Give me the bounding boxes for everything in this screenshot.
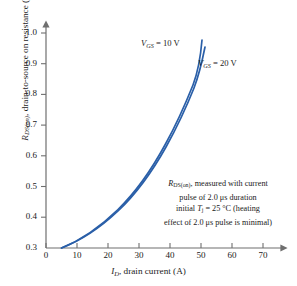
note-subscript: DS(on) <box>173 182 190 188</box>
x-tick-label: 30 <box>126 250 152 260</box>
curve-label-vgs-20v: VGS = 20 V <box>198 58 237 69</box>
y-axis-title-text: , drain-to-source on resistance (Ω) <box>20 0 30 116</box>
curve-label-text: = 20 V <box>211 58 237 68</box>
x-tick-label: 0 <box>33 250 59 260</box>
x-tick-label: 60 <box>219 250 245 260</box>
x-axis-title-text: , drain current (A) <box>119 266 186 276</box>
y-axis-title-symbol: R <box>20 135 30 141</box>
x-axis-ticks <box>46 243 263 248</box>
curve-label-subscript: GS <box>203 62 211 69</box>
y-tick-label: 0.5 <box>11 181 37 191</box>
chart-note-line-2: pulse of 2.0 μs duration <box>140 192 296 203</box>
x-tick-label: 40 <box>157 250 183 260</box>
x-tick-label: 10 <box>64 250 90 260</box>
note-text-lead: initial <box>176 204 197 213</box>
curve-label-vgs-10v: VGS = 10 V <box>141 38 180 49</box>
y-axis-title: RDS(on), drain-to-source on resistance (… <box>20 0 31 170</box>
chart-note-line-1: RDS(on), measured with current <box>140 178 296 192</box>
chart-note-line-3: initial Tj = 25 °C (heating <box>140 203 296 217</box>
curve-label-text: = 10 V <box>154 38 180 48</box>
y-axis-title-subscript: DS(on) <box>23 116 30 135</box>
note-text-tail: = 25 °C (heating <box>203 204 260 213</box>
note-text: , measured with current <box>191 179 268 188</box>
x-axis-title: ID, drain current (A) <box>0 266 297 277</box>
x-tick-label: 20 <box>95 250 121 260</box>
chart-note-line-4: effect of 2.0 μs pulse is minimal) <box>140 217 296 228</box>
chart-figure: 1.0 0.9 0.8 0.7 0.6 0.5 0.4 0.3 0 10 20 … <box>0 0 297 286</box>
y-axis-ticks <box>41 33 46 217</box>
curve-label-subscript: GS <box>146 42 154 49</box>
x-tick-label: 50 <box>188 250 214 260</box>
x-tick-label: 70 <box>250 250 276 260</box>
chart-note: RDS(on), measured with current pulse of … <box>140 178 296 229</box>
y-tick-label: 0.4 <box>11 211 37 221</box>
